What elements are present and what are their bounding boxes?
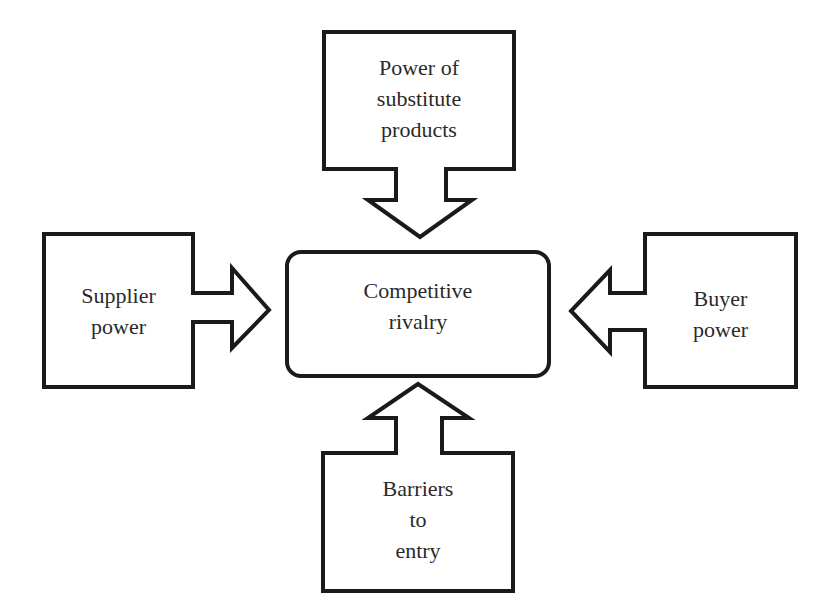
buyer-label: Buyer power bbox=[645, 283, 796, 345]
supplier-label: Supplier power bbox=[44, 280, 193, 342]
rivalry-label: Competitive rivalry bbox=[287, 275, 549, 337]
entry-label: Barriers to entry bbox=[323, 473, 513, 566]
substitutes-label: Power of substitute products bbox=[324, 52, 514, 145]
